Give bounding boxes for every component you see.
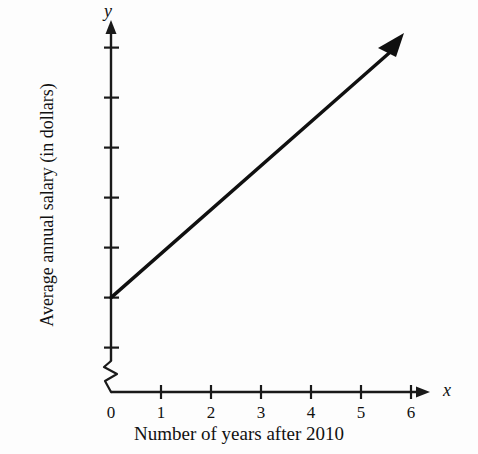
data-series-line [111,47,396,298]
data-series-arrowhead [378,33,404,57]
x-tick-label: 4 [307,404,316,421]
x-tick-label: 1 [157,404,166,421]
x-tick-label: 5 [357,404,366,421]
salary-line-graph-figure: 122,000 120,000 118,000 116,000 114,000 … [0,0,478,454]
x-tick-label: 2 [207,404,216,421]
x-tick-label: 0 [107,404,116,421]
y-axis-variable-letter: y [104,2,112,20]
y-axis-title: Average annual salary (in dollars) [38,40,56,370]
x-tick-label: 3 [257,404,266,421]
y-axis-arrowhead [106,20,117,34]
x-tick-label: 6 [407,404,416,421]
x-axis-title: Number of years after 2010 [0,424,478,443]
x-axis-variable-letter: x [443,381,451,399]
chart-canvas [0,0,478,454]
x-axis-arrowhead [416,387,430,398]
y-axis-break-zigzag [104,361,117,392]
